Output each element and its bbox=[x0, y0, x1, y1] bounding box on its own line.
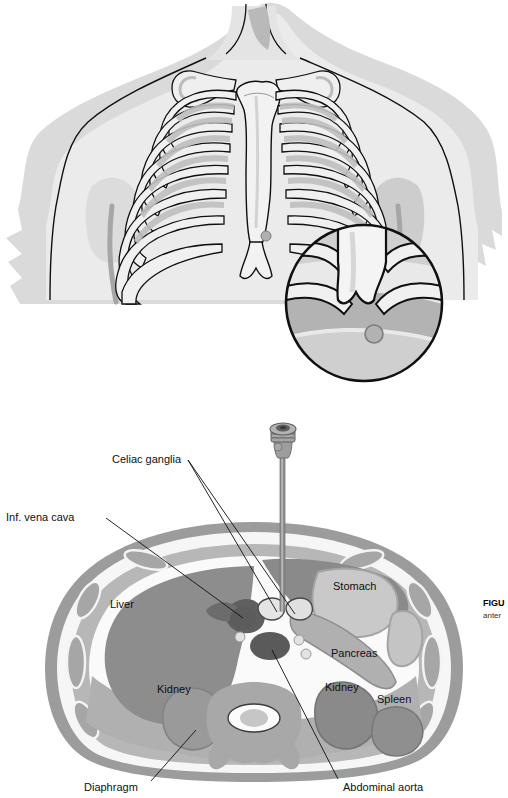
label-kidney-left: Kidney bbox=[325, 681, 359, 693]
label-inf-vena-cava: Inf. vena cava bbox=[6, 511, 75, 523]
spinal-cord bbox=[240, 709, 268, 727]
label-kidney-right: Kidney bbox=[157, 683, 191, 695]
bottom-panel-axial-cross-section bbox=[45, 423, 463, 782]
xiphoid-magnification-inset bbox=[286, 225, 442, 381]
celiac-ganglion-left bbox=[286, 598, 312, 620]
label-abdominal-aorta: Abdominal aorta bbox=[343, 781, 424, 793]
label-diaphragm: Diaphragm bbox=[84, 781, 138, 793]
label-stomach: Stomach bbox=[333, 580, 376, 592]
abdominal-aorta bbox=[250, 632, 290, 660]
needle-hub-wing bbox=[274, 443, 282, 451]
figure-caption: FIGU anter bbox=[483, 598, 505, 620]
figure-caption-title: FIGU bbox=[483, 598, 505, 608]
gastric-fundus bbox=[388, 611, 423, 666]
spleen-organ bbox=[372, 707, 423, 756]
label-pancreas: Pancreas bbox=[331, 647, 378, 659]
top-panel-anterior-thorax bbox=[6, 3, 502, 381]
figure-caption-text: anter bbox=[483, 611, 502, 620]
label-celiac-ganglia: Celiac ganglia bbox=[112, 453, 182, 465]
label-spleen: Spleen bbox=[377, 693, 411, 705]
needle-insertion-point-marker bbox=[261, 231, 271, 241]
label-liver: Liver bbox=[110, 598, 134, 610]
figure-container: Celiac ganglia Inf. vena cava Liver Stom… bbox=[0, 0, 508, 798]
medical-illustration-svg: Celiac ganglia Inf. vena cava Liver Stom… bbox=[0, 0, 508, 798]
